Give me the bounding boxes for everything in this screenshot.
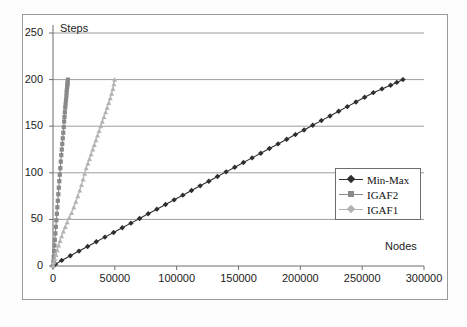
x-tick-label: 50000 — [85, 272, 145, 284]
legend-item-igaf2: IGAF2 — [336, 187, 420, 202]
y-tick-label: 250 — [9, 26, 43, 38]
chart-legend: Min-Max IGAF2 IGAF1 — [335, 168, 421, 220]
legend-item-igaf1: IGAF1 — [336, 202, 420, 217]
legend-key-igaf2-icon — [339, 190, 363, 200]
y-tick-label: 200 — [9, 73, 43, 85]
y-tick-label: 100 — [9, 166, 43, 178]
legend-label-igaf2: IGAF2 — [367, 189, 398, 201]
chart-figure: Steps Nodes 050100150200250 050000100000… — [0, 0, 467, 327]
legend-label-igaf1: IGAF1 — [367, 204, 398, 216]
axis-lines — [53, 25, 424, 266]
x-axis-title: Nodes — [385, 240, 417, 252]
y-axis-title: Steps — [60, 22, 88, 34]
x-tick-label: 250000 — [332, 272, 392, 284]
axis-ticks — [49, 33, 424, 270]
legend-label-min-max: Min-Max — [367, 174, 409, 186]
x-tick-label: 300000 — [394, 272, 454, 284]
legend-key-min-max-icon — [339, 175, 363, 185]
x-tick-label: 0 — [23, 272, 83, 284]
y-tick-label: 50 — [9, 212, 43, 224]
y-tick-label: 150 — [9, 119, 43, 131]
legend-item-min-max: Min-Max — [336, 172, 420, 187]
x-tick-label: 200000 — [270, 272, 330, 284]
legend-key-igaf1-icon — [339, 205, 363, 215]
x-tick-label: 150000 — [209, 272, 269, 284]
y-tick-label: 0 — [9, 259, 43, 271]
x-tick-label: 100000 — [147, 272, 207, 284]
